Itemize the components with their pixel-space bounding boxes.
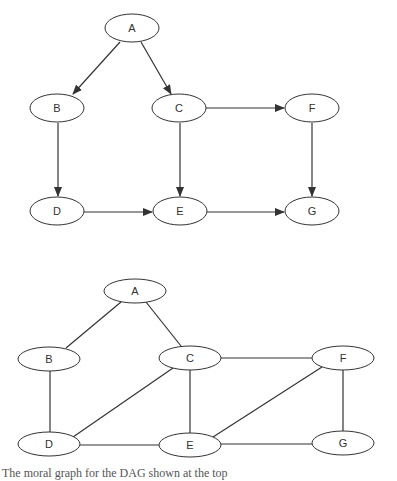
- node-c: C: [159, 346, 221, 370]
- node-label: B: [53, 102, 60, 114]
- edge-a-b: [66, 302, 121, 348]
- node-f: F: [285, 94, 339, 122]
- arrow-a-b: [73, 42, 120, 94]
- node-g: G: [285, 197, 339, 225]
- node-a: A: [104, 279, 166, 303]
- node-d: D: [18, 432, 80, 456]
- node-c: C: [152, 94, 206, 122]
- node-a: A: [105, 14, 159, 42]
- figure-caption: The moral graph for the DAG shown at the…: [2, 466, 228, 481]
- node-label: A: [128, 22, 136, 34]
- node-label: F: [340, 352, 347, 364]
- node-label: F: [309, 102, 316, 114]
- moral-graph-diagram: ABCFDEG: [18, 279, 374, 457]
- node-label: E: [176, 205, 183, 217]
- node-e: E: [153, 197, 207, 225]
- node-label: D: [45, 438, 53, 450]
- node-label: G: [308, 205, 317, 217]
- node-label: C: [175, 102, 183, 114]
- node-g: G: [312, 431, 374, 455]
- node-b: B: [30, 94, 84, 122]
- node-b: B: [18, 347, 80, 371]
- node-label: G: [339, 437, 348, 449]
- node-label: C: [186, 352, 194, 364]
- node-d: D: [30, 197, 84, 225]
- node-e: E: [159, 433, 221, 457]
- node-f: F: [312, 346, 374, 370]
- arrow-a-c: [141, 42, 171, 94]
- edge-f-e: [213, 367, 322, 437]
- edge-c-d: [73, 368, 173, 437]
- edge-a-c: [146, 302, 181, 346]
- node-label: A: [131, 285, 139, 297]
- node-label: B: [45, 353, 52, 365]
- node-label: D: [53, 205, 61, 217]
- dag-diagram: ABCFDEG: [30, 14, 339, 225]
- node-label: E: [186, 439, 193, 451]
